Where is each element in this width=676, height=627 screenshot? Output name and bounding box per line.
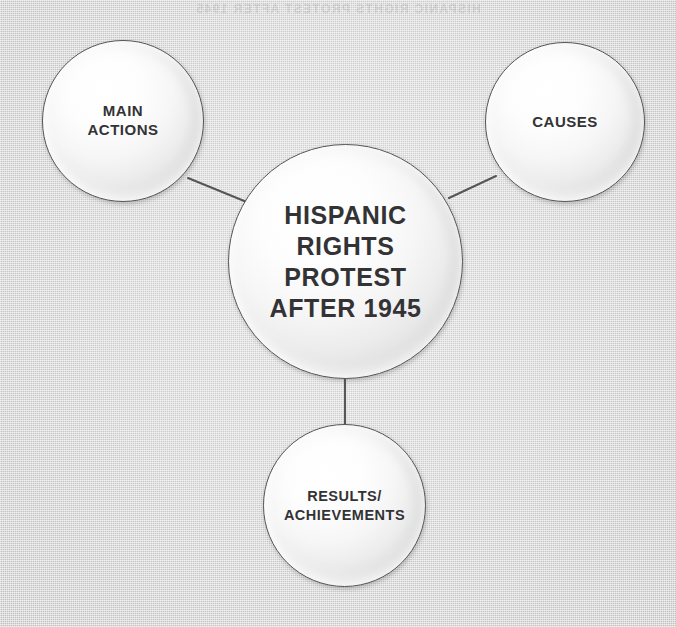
node-main-actions-label: MAIN ACTIONS [88, 102, 159, 140]
concept-map-canvas: HISPANIC RIGHTS PROTEST AFTER 1945 MAIN … [0, 0, 676, 627]
node-causes[interactable]: CAUSES [485, 42, 645, 202]
connector-center-to-causes [449, 176, 496, 198]
node-results-achievements[interactable]: RESULTS/ ACHIEVEMENTS [263, 424, 426, 587]
node-results-achievements-label: RESULTS/ ACHIEVEMENTS [284, 487, 405, 523]
node-causes-label: CAUSES [532, 113, 598, 132]
node-center-topic[interactable]: HISPANIC RIGHTS PROTEST AFTER 1945 [228, 144, 463, 379]
node-main-actions[interactable]: MAIN ACTIONS [42, 40, 204, 202]
node-center-topic-label: HISPANIC RIGHTS PROTEST AFTER 1945 [270, 200, 422, 324]
